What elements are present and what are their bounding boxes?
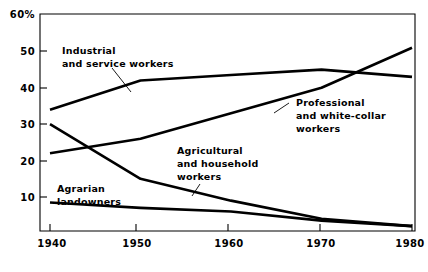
x-tick-label-1960: 1960 [214, 238, 243, 249]
annotation-industrial-line1: Industrial [62, 45, 116, 56]
y-tick-label-10: 10 [20, 192, 35, 203]
annotation-agricultural-line3: workers [177, 171, 221, 182]
x-axis-labels: 1940 1950 1960 1970 1980 [37, 238, 424, 249]
y-tick-label-50: 50 [20, 46, 35, 57]
y-axis-ticks [40, 51, 47, 197]
y-tick-label-60: 60% [10, 9, 35, 20]
annotation-industrial-line2: and service workers [62, 58, 174, 69]
annotation-professional-line1: Professional [296, 97, 365, 108]
x-tick-label-1950: 1950 [122, 238, 151, 249]
annotation-agrarian-line1: Agrarian [57, 183, 105, 194]
line-chart: 60% 50 40 30 20 10 1940 1950 1960 1970 1… [0, 0, 428, 272]
annotation-agrarian-line2: landowners [57, 196, 121, 207]
y-axis-labels: 60% 50 40 30 20 10 [10, 9, 35, 203]
annotation-agricultural-and-household-workers: Agricultural and household workers [177, 145, 258, 182]
annotation-industrial-and-service-workers: Industrial and service workers [62, 45, 174, 69]
annotation-professional-and-white-collar-workers: Professional and white-collar workers [296, 97, 386, 134]
annotation-agricultural-line1: Agricultural [177, 145, 243, 156]
y-tick-label-20: 20 [20, 156, 35, 167]
annotation-professional-line2: and white-collar [296, 110, 386, 121]
chart-canvas: 60% 50 40 30 20 10 1940 1950 1960 1970 1… [0, 0, 428, 272]
x-tick-label-1980: 1980 [395, 238, 424, 249]
y-tick-label-30: 30 [20, 119, 35, 130]
annotation-agrarian-landowners: Agrarian landowners [57, 183, 121, 207]
y-tick-label-40: 40 [20, 83, 35, 94]
annotation-agricultural-line2: and household [177, 158, 258, 169]
annotation-professional-line3: workers [296, 123, 340, 134]
x-tick-label-1970: 1970 [306, 238, 335, 249]
x-tick-label-1940: 1940 [37, 238, 66, 249]
leader-line-professional [274, 103, 289, 113]
x-axis-ticks [50, 224, 412, 231]
